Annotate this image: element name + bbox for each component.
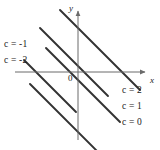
- level-label-c-1: c = 1: [122, 102, 142, 112]
- x-axis-label: x: [150, 76, 154, 85]
- y-axis-label: y: [69, 4, 73, 13]
- contour-plot-figure: x y 0 c = -1 c = -2 c = 2 c = 1 c = 0: [0, 0, 160, 150]
- level-curve-c-2: [30, 84, 100, 150]
- level-curves: [24, 10, 140, 150]
- level-label-c-2: c = 2: [122, 86, 142, 96]
- level-label-c-0: c = 0: [122, 118, 142, 128]
- level-label-c-minus-1: c = -1: [4, 40, 27, 50]
- level-label-c-minus-2: c = -2: [4, 56, 27, 66]
- plot-canvas: [0, 0, 160, 150]
- origin-label: 0: [68, 74, 73, 83]
